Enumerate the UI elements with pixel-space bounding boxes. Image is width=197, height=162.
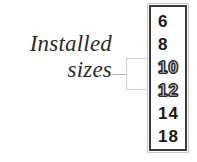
font-size-listbox[interactable]: 6 8 10 12 14 18 (147, 3, 189, 153)
annotation-line-2: sizes (2, 57, 112, 83)
list-item[interactable]: 18 (151, 125, 185, 148)
list-item[interactable]: 10 (151, 56, 185, 79)
annotation-line-1: Installed (2, 31, 112, 57)
annotation-label: Installed sizes (2, 31, 112, 83)
leader-line-icon (112, 74, 127, 75)
list-item[interactable]: 8 (151, 33, 185, 56)
list-item[interactable]: 6 (151, 10, 185, 33)
list-item[interactable]: 14 (151, 102, 185, 125)
screenshot-root: Installed sizes 6 8 10 12 14 18 (0, 0, 197, 162)
list-item[interactable]: 12 (151, 79, 185, 102)
annotation-callout (112, 58, 152, 92)
font-size-listbox-inner[interactable]: 6 8 10 12 14 18 (149, 5, 187, 151)
